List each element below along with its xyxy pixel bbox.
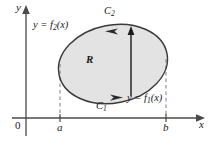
lower-path-label-prefix: C <box>96 100 103 111</box>
upper-curve-label-prefix: y = f <box>33 19 53 30</box>
lower-curve-label-suffix: (x) <box>151 92 163 103</box>
x-axis-label: x <box>199 119 204 130</box>
region-label: R <box>86 54 93 65</box>
y-axis-label: y <box>16 2 21 13</box>
upper-path-label: C2 <box>104 6 115 17</box>
x-axis <box>12 114 205 122</box>
upper-curve-label: y = f2(x) <box>33 20 68 31</box>
lower-curve-label: y = f1(x) <box>127 93 162 104</box>
y-axis <box>22 5 30 136</box>
upper-path-label-prefix: C <box>104 5 111 16</box>
origin-label: 0 <box>15 120 21 131</box>
upper-path-label-subscript: 2 <box>111 9 115 18</box>
tick-label-b: b <box>163 122 169 133</box>
y-axis-arrowhead <box>22 5 30 14</box>
upper-curve-label-suffix: (x) <box>57 19 69 30</box>
lower-curve-label-prefix: y = f <box>127 92 147 103</box>
figure-region-r: y x 0 a b y = f2(x) y = f1(x) C2 C1 R <box>0 0 214 148</box>
tick-label-a: a <box>57 122 63 133</box>
lower-path-label-subscript: 1 <box>103 104 107 113</box>
lower-path-label: C1 <box>96 101 107 112</box>
